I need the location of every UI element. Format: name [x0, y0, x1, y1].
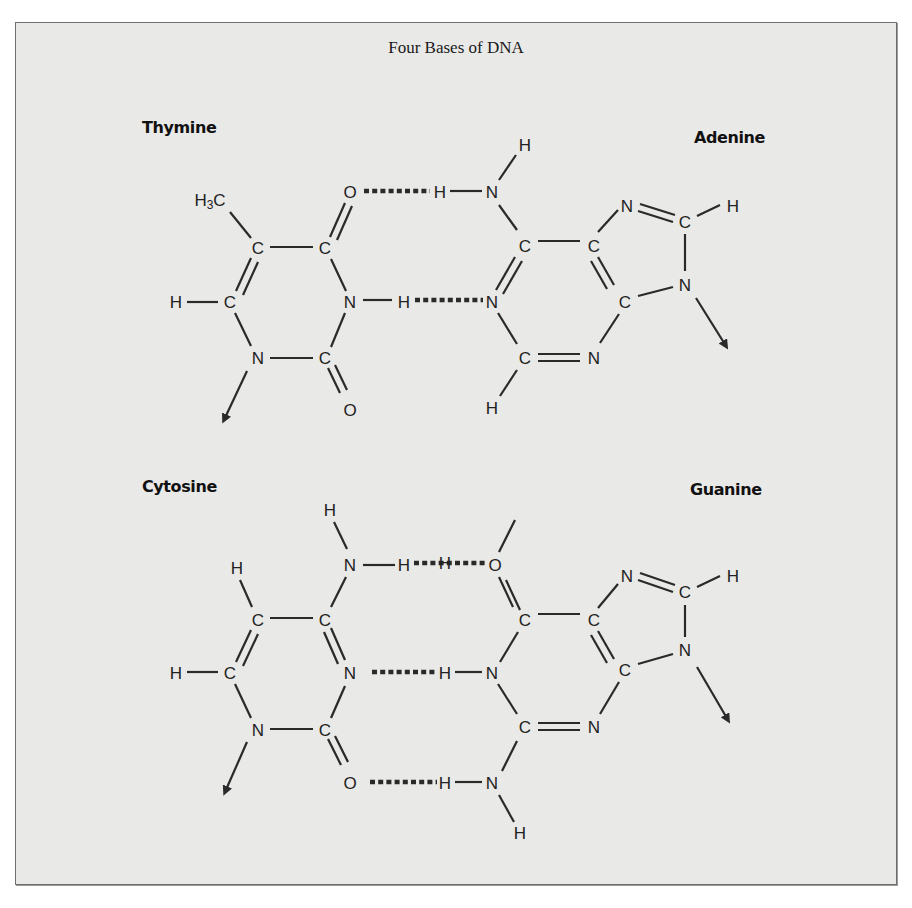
svg-text:N: N	[486, 183, 498, 202]
svg-text:C: C	[252, 239, 264, 258]
svg-text:H: H	[170, 293, 182, 312]
svg-text:O: O	[343, 774, 356, 793]
svg-text:H: H	[727, 197, 739, 216]
svg-text:H: H	[434, 183, 446, 202]
svg-text:N: N	[679, 641, 691, 660]
svg-text:N: N	[344, 556, 356, 575]
svg-text:C: C	[619, 661, 631, 680]
svg-text:O: O	[343, 401, 356, 420]
svg-text:C: C	[588, 237, 600, 256]
svg-text:C: C	[588, 611, 600, 630]
svg-text:C: C	[519, 349, 531, 368]
svg-text:C: C	[519, 237, 531, 256]
svg-text:O: O	[488, 556, 501, 575]
svg-text:C: C	[519, 718, 531, 737]
svg-text:N: N	[344, 664, 356, 683]
svg-text:C: C	[252, 611, 264, 630]
svg-text:O: O	[343, 183, 356, 202]
svg-text:C: C	[319, 611, 331, 630]
svg-text:N: N	[588, 349, 600, 368]
svg-text:N: N	[344, 293, 356, 312]
svg-text:H: H	[439, 774, 451, 793]
svg-text:N: N	[252, 721, 264, 740]
svg-text:H: H	[231, 559, 243, 578]
svg-text:C: C	[224, 293, 236, 312]
svg-text:H: H	[439, 664, 451, 683]
svg-text:C: C	[519, 611, 531, 630]
svg-text:N: N	[486, 664, 498, 683]
svg-text:C: C	[679, 583, 691, 602]
cytosine-molecule: H N H H C C H C N N C O	[170, 501, 410, 793]
thymine-molecule: H3C C C O H C N N C O	[170, 183, 392, 421]
svg-text:C: C	[319, 721, 331, 740]
svg-text:H: H	[486, 399, 498, 418]
svg-text:N: N	[621, 567, 633, 586]
svg-text:N: N	[679, 276, 691, 295]
svg-text:H3C: H3C	[194, 191, 225, 213]
svg-text:H: H	[727, 567, 739, 586]
svg-text:C: C	[224, 664, 236, 683]
svg-text:N: N	[588, 718, 600, 737]
svg-text:N: N	[252, 349, 264, 368]
svg-text:C: C	[319, 349, 331, 368]
svg-text:H: H	[398, 293, 410, 312]
svg-text:H: H	[324, 501, 336, 520]
svg-text:H: H	[398, 556, 410, 575]
structure-diagram: H3C C C O H C N N C O H N H	[0, 0, 912, 908]
svg-text:H: H	[439, 554, 451, 573]
svg-text:C: C	[619, 293, 631, 312]
svg-text:N: N	[621, 197, 633, 216]
svg-text:H: H	[170, 664, 182, 683]
guanine-molecule: O H C C N C H N C H N C N H N H	[439, 520, 739, 843]
svg-text:H: H	[514, 824, 526, 843]
svg-text:H: H	[519, 136, 531, 155]
svg-text:C: C	[679, 213, 691, 232]
adenine-molecule: H N H C C N C H N C N H C N H	[398, 136, 739, 418]
svg-text:C: C	[319, 239, 331, 258]
svg-text:N: N	[486, 774, 498, 793]
svg-text:N: N	[486, 293, 498, 312]
